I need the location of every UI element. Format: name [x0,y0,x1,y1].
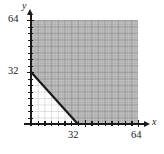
y-axis-line [30,14,32,126]
x-tick-40 [98,121,99,126]
y-tick-24 [28,85,33,86]
x-axis-arrow-icon [144,121,150,127]
x-tick-label-32: 32 [68,129,79,140]
x-tick-12 [51,121,52,126]
x-tick-56 [125,121,126,126]
x-tick-16 [58,121,59,126]
x-axis-label: x [152,116,156,127]
y-tick-52 [28,40,33,41]
y-tick-40 [28,59,33,60]
y-tick-60 [28,27,33,28]
y-tick-36 [28,66,33,67]
y-axis-arrow-icon [27,9,33,15]
x-tick-32 [85,120,86,127]
y-tick-label-32: 32 [8,65,19,76]
graph-figure: y x 64 32 32 64 [0,0,164,154]
boundary-line [31,20,138,124]
y-axis-label: y [22,0,26,11]
x-tick-20 [64,121,65,126]
y-tick-4 [28,118,33,119]
y-tick-32 [27,72,34,73]
x-tick-48 [111,121,112,126]
x-tick-52 [118,121,119,126]
x-tick-64 [138,120,139,127]
y-tick-16 [28,98,33,99]
y-tick-label-64: 64 [8,13,19,24]
x-tick-36 [91,121,92,126]
y-tick-64 [27,20,34,21]
x-tick-60 [131,121,132,126]
x-tick-4 [38,121,39,126]
x-tick-28 [78,121,79,126]
y-tick-20 [28,92,33,93]
y-tick-12 [28,105,33,106]
y-tick-28 [28,79,33,80]
plot-area [31,20,138,124]
y-tick-56 [28,33,33,34]
x-tick-8 [44,121,45,126]
y-tick-48 [28,46,33,47]
x-tick-24 [71,121,72,126]
y-tick-8 [28,111,33,112]
y-tick-44 [28,53,33,54]
x-tick-44 [105,121,106,126]
x-tick-label-64: 64 [131,129,142,140]
